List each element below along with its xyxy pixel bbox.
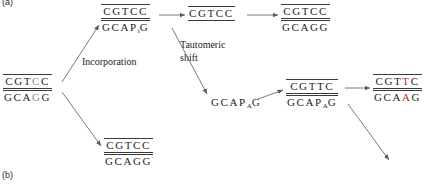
base-g-0: G	[102, 21, 112, 34]
base-c-0: C	[290, 80, 299, 93]
top-strand: CGTCC	[188, 6, 235, 21]
caption-tautomeric-line1: Tautomeric	[180, 38, 225, 51]
base-g-1: G	[299, 80, 309, 93]
base-c-4: C	[319, 5, 328, 18]
base-t-2: T	[125, 139, 133, 152]
bottom-strand: GCAPiG	[101, 20, 150, 38]
base-a-2: A	[120, 21, 130, 34]
base-t-2: T	[309, 80, 317, 93]
base-g-3: G	[310, 21, 320, 34]
base-c-3: C	[310, 5, 319, 18]
base-c-1: C	[292, 21, 301, 34]
unchanged-duplex: CGTCCGCAGG	[104, 138, 153, 168]
base-t-2: T	[302, 5, 310, 18]
base-c-4: C	[142, 139, 151, 152]
base-g-4: G	[143, 155, 153, 168]
base-c-4: C	[41, 75, 50, 88]
base-a-3: A	[402, 91, 412, 104]
base-g-4: G	[412, 91, 422, 104]
base-c-4: C	[325, 80, 334, 93]
base-c-3: C	[216, 7, 225, 20]
top-strand: CGTCC	[3, 74, 52, 89]
top-strand: CGTTC	[373, 74, 422, 89]
base-t-3: T	[402, 75, 410, 88]
bottom-strand: GCAGG	[3, 90, 52, 104]
base-g-4: G	[42, 91, 52, 104]
caption-tautomeric-line2: shift	[180, 51, 225, 64]
base-p-3: PA	[315, 96, 328, 113]
base-t-2: T	[24, 75, 32, 88]
arrow-mismatch-to-offspring	[348, 104, 389, 160]
restored-duplex: CGTCCGCAGG	[281, 4, 330, 34]
bottom-strand: GCAPAG	[210, 96, 262, 113]
base-g-0: G	[287, 96, 297, 109]
panel-label-b: (b)	[2, 170, 13, 180]
base-g-0: G	[282, 21, 292, 34]
base-p-3: Pi	[130, 21, 140, 38]
parent-duplex: CGTCCGCAGG	[3, 74, 52, 104]
base-g-0: G	[105, 155, 115, 168]
base-t-3: T	[317, 80, 325, 93]
mismatched-duplex: CGTTCGCAPAG	[286, 79, 338, 113]
tautomer-shifted-strand: GCAPAG	[210, 96, 262, 113]
base-g-4: G	[328, 96, 338, 109]
base-c-0: C	[5, 75, 14, 88]
base-g-3: G	[133, 155, 143, 168]
base-g-1: G	[14, 75, 24, 88]
base-p-3: PA	[239, 96, 252, 113]
top-strand: CGTCC	[104, 138, 153, 153]
mutant-duplex: CGTTCGCAAG	[373, 74, 422, 104]
base-g-0: G	[374, 91, 384, 104]
top-strand: CGTCC	[101, 4, 150, 19]
bottom-strand: GCAPAG	[286, 95, 338, 113]
base-g-4: G	[252, 96, 262, 109]
incorporated-duplex: CGTCCGCAPiG	[101, 4, 150, 38]
top-strand: CGTTC	[286, 79, 338, 94]
base-a-2: A	[392, 91, 402, 104]
arrow-parent-to-incorporated	[62, 25, 99, 82]
panel-label-a: (a)	[2, 0, 13, 7]
base-c-1: C	[297, 96, 306, 109]
base-c-1: C	[221, 96, 230, 109]
base-a-2: A	[123, 155, 133, 168]
base-c-1: C	[115, 155, 124, 168]
base-a-2: A	[22, 91, 32, 104]
base-c-1: C	[384, 91, 393, 104]
base-g-1: G	[115, 139, 125, 152]
base-g-0: G	[4, 91, 14, 104]
base-c-0: C	[103, 5, 112, 18]
base-c-3: C	[130, 5, 139, 18]
arrow-parent-to-unchanged	[62, 92, 101, 146]
base-g-0: G	[211, 96, 221, 109]
bottom-strand: GCAGG	[104, 154, 153, 168]
base-g-1: G	[198, 7, 208, 20]
base-g-4: G	[320, 21, 330, 34]
base-c-3: C	[32, 75, 41, 88]
base-a-2: A	[305, 96, 315, 109]
base-c-0: C	[189, 7, 198, 20]
base-t-2: T	[394, 75, 402, 88]
base-c-0: C	[376, 75, 385, 88]
base-t-2: T	[207, 7, 215, 20]
base-c-3: C	[133, 139, 142, 152]
base-t-2: T	[122, 5, 130, 18]
base-g-1: G	[292, 5, 302, 18]
base-a-2: A	[300, 21, 310, 34]
caption-incorporation: Incorporation	[82, 56, 136, 67]
base-g-1: G	[112, 5, 122, 18]
caption-tautomeric-shift: Tautomeric shift	[180, 38, 225, 64]
mutation-pathway-figure: (a) (b) CGTCCGCAGG CGTCCGCAPiG CGTCC CGT…	[0, 0, 446, 186]
base-g-1: G	[384, 75, 394, 88]
base-g-3: G	[32, 91, 42, 104]
base-c-4: C	[225, 7, 234, 20]
replicated-duplex: CGTCC	[188, 6, 235, 21]
base-a-2: A	[229, 96, 239, 109]
base-g-4: G	[140, 21, 150, 34]
top-strand: CGTCC	[281, 4, 330, 19]
base-c-0: C	[106, 139, 115, 152]
base-c-0: C	[283, 5, 292, 18]
bottom-strand: GCAAG	[373, 90, 422, 104]
base-c-1: C	[112, 21, 121, 34]
base-c-4: C	[139, 5, 148, 18]
bottom-strand: GCAGG	[281, 20, 330, 34]
